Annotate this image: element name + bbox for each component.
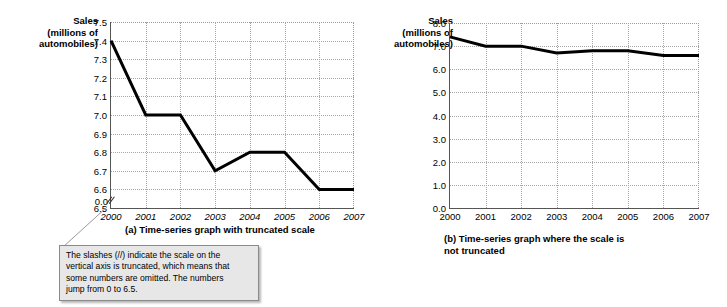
y-tick-label: 6.8 <box>94 147 107 158</box>
callout-line-1: The slashes (//) indicate the scale on t… <box>66 250 252 261</box>
x-tick-label: 2002 <box>170 211 191 222</box>
y-tick-label: 7.2 <box>94 72 107 83</box>
chart-a-y-axis-title-line-3: automobiles) <box>18 38 98 50</box>
y-tick-label: 2.0 <box>433 156 446 167</box>
x-tick-label: 2000 <box>439 211 460 222</box>
truncation-callout-box: The slashes (//) indicate the scale on t… <box>59 245 259 301</box>
chart-a-data-line <box>111 22 354 208</box>
x-tick-label: 2006 <box>653 211 674 222</box>
callout-line-3: some numbers are omitted. The numbers <box>66 273 252 284</box>
callout-leader-line <box>55 205 115 250</box>
x-tick-label: 2001 <box>135 211 156 222</box>
y-tick-label: 6.6 <box>94 184 107 195</box>
x-tick-label: 2003 <box>546 211 567 222</box>
x-tick-label: 2001 <box>475 211 496 222</box>
y-tick-label: 6.0 <box>433 64 446 75</box>
y-tick-label: 7.4 <box>94 35 107 46</box>
y-tick-label: 7.3 <box>94 54 107 65</box>
series-polyline <box>111 41 354 190</box>
figure-page: Sales (millions of automobiles) 7.57.47.… <box>0 0 727 307</box>
y-tick-label: 8.0 <box>433 18 446 29</box>
chart-b-caption-line-1: (b) Time-series graph where the scale is <box>444 233 694 245</box>
x-tick-label: 2005 <box>617 211 638 222</box>
chart-a-y-axis-title-line-1: Sales <box>18 15 98 27</box>
y-tick-label: 5.0 <box>433 87 446 98</box>
x-tick-label: 2002 <box>511 211 532 222</box>
x-tick-label: 2005 <box>274 211 295 222</box>
y-tick-label: 6.7 <box>94 165 107 176</box>
chart-b-plot-area: 8.07.06.05.04.03.02.01.00.0 200020012002… <box>449 23 699 209</box>
y-tick-label: 3.0 <box>433 133 446 144</box>
x-tick-label: 2007 <box>688 211 709 222</box>
chart-a-plot-area: 7.57.47.37.27.17.06.96.86.76.66.5 200020… <box>110 22 354 209</box>
y-tick-label: 4.0 <box>433 110 446 121</box>
y-tick-label: 7.0 <box>433 41 446 52</box>
x-tick-label: 2006 <box>309 211 330 222</box>
y-tick-label: 7.1 <box>94 91 107 102</box>
x-tick-label: 2004 <box>582 211 603 222</box>
y-tick-label: 6.9 <box>94 128 107 139</box>
chart-b-caption-line-2: not truncated <box>444 245 694 257</box>
callout-line-2: vertical axis is truncated, which means … <box>66 261 252 272</box>
chart-a-y-axis-title: Sales (millions of automobiles) <box>18 15 98 50</box>
chart-a-caption: (a) Time-series graph with truncated sca… <box>125 224 365 236</box>
chart-b-data-line <box>450 23 699 208</box>
y-tick-label: 7.5 <box>94 17 107 28</box>
chart-a-y-axis-title-line-2: (millions of <box>18 27 98 39</box>
series-polyline <box>450 37 699 56</box>
y-tick-label: 1.0 <box>433 179 446 190</box>
y-tick-label: 7.0 <box>94 110 107 121</box>
x-tick-label: 2003 <box>205 211 226 222</box>
callout-line-4: jump from 0 to 6.5. <box>66 284 252 295</box>
x-tick-label: 2004 <box>239 211 260 222</box>
chart-panel-b: Sales (millions of automobiles) 8.07.06.… <box>360 0 727 270</box>
chart-b-caption: (b) Time-series graph where the scale is… <box>444 233 694 257</box>
